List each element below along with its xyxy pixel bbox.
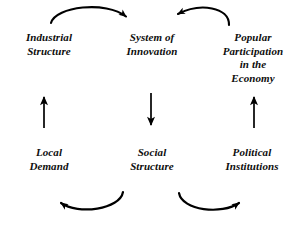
arrow-social-structure-to-political-institutions — [179, 193, 239, 210]
node-popular-participation: Popular Participation in the Economy — [206, 31, 300, 85]
arrow-industrial-structure-to-system-of-innovation — [51, 7, 126, 23]
arrow-social-structure-to-local-demand — [61, 192, 123, 209]
arrow-popular-participation-to-system-of-innovation — [178, 8, 229, 25]
diagram-canvas: Industrial Structure System of Innovatio… — [0, 0, 302, 235]
cropped-caption-strip — [0, 226, 302, 235]
node-political-institutions: Political Institutions — [204, 146, 300, 173]
node-local-demand: Local Demand — [2, 146, 96, 173]
node-system-of-innovation: System of Innovation — [104, 31, 200, 58]
node-social-structure: Social Structure — [104, 146, 200, 173]
node-industrial-structure: Industrial Structure — [2, 31, 96, 58]
